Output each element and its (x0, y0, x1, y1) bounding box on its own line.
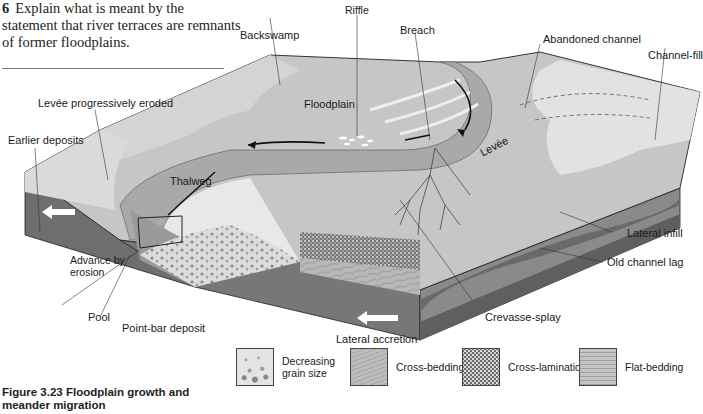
label-point-bar-deposit: Point-bar deposit (122, 322, 205, 334)
figure-number: Figure 3.23 (2, 386, 63, 398)
legend-item-grain-size: Decreasinggrain size (236, 348, 335, 386)
legend-label: Flat-bedding (625, 361, 683, 373)
label-lateral-accretion: Lateral accretion (336, 333, 417, 345)
label-backswamp: Backswamp (240, 29, 299, 41)
label-lateral-infill: Lateral infill (627, 227, 683, 239)
label-thalweg: Thalweg (170, 175, 212, 187)
legend-label: Decreasing (282, 355, 335, 367)
label-riffle: Riffle (345, 4, 369, 16)
legend-label: Cross-bedding (396, 361, 464, 373)
label-old-channel-lag: Old channel lag (607, 256, 683, 268)
legend-item-flat-bedding: Flat-bedding (579, 348, 683, 386)
label-abandoned-channel: Abandoned channel (543, 33, 641, 45)
legend-item-cross-bedding: Cross-bedding (350, 348, 464, 386)
label-pool: Pool (88, 311, 110, 323)
figure-caption: Figure 3.23 Floodplain growth and meande… (2, 386, 212, 412)
grain-size-swatch (236, 348, 274, 386)
cross-lamination-swatch (462, 348, 500, 386)
label-levee-eroded: Levée progressively eroded (38, 97, 173, 109)
label-crevasse-splay: Crevasse-splay (485, 311, 561, 323)
legend-label: grain size (282, 367, 335, 379)
legend-label: Cross-lamination (508, 361, 587, 373)
label-channel-fill: Channel-fill (648, 49, 703, 61)
label-advance-by-erosion: Advance by erosion (70, 254, 126, 278)
flat-bedding-swatch (579, 348, 617, 386)
label-floodplain: Floodplain (304, 98, 355, 110)
label-breach: Breach (400, 24, 435, 36)
label-earlier-deposits: Earlier deposits (8, 134, 84, 146)
cross-bedding-swatch (350, 348, 388, 386)
legend-item-cross-lamination: Cross-lamination (462, 348, 587, 386)
